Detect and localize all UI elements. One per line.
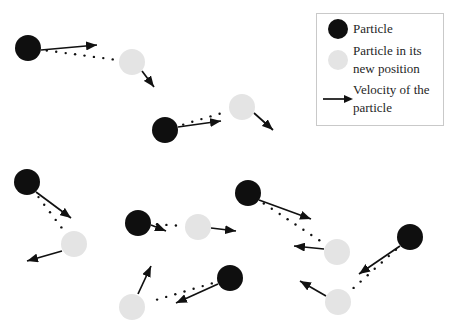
trail-dot — [310, 234, 312, 236]
particle — [397, 224, 423, 250]
trail-dot — [49, 211, 51, 213]
trail-dot — [43, 204, 45, 206]
trail-dot — [271, 208, 273, 210]
particle-new-position — [119, 49, 145, 75]
trail-dot — [102, 57, 104, 59]
trail-dot — [381, 261, 383, 263]
black-particle-swatch — [328, 19, 348, 39]
trail-dot — [367, 274, 369, 276]
velocity-arrow — [178, 121, 221, 127]
trail-dot — [55, 219, 57, 221]
velocity-arrow — [41, 45, 97, 50]
new-velocity-arrow — [254, 113, 273, 130]
particle — [235, 180, 261, 206]
velocity-arrow — [176, 284, 218, 303]
legend-box: Particle Particle in its new position Ve… — [316, 13, 444, 126]
legend-text-line: Velocity of the — [353, 81, 430, 99]
trail-dot — [60, 226, 62, 228]
legend-item-velocity: Velocity of the particle — [323, 81, 439, 117]
new-velocity-arrow — [138, 266, 151, 294]
trail-dot — [218, 113, 220, 115]
new-velocity-arrow — [300, 281, 326, 296]
legend-label-particle: Particle — [353, 20, 393, 38]
new-velocity-arrow — [27, 251, 62, 261]
trail-dot — [174, 293, 176, 295]
trail-dot — [352, 287, 354, 289]
trail-dot — [65, 52, 67, 54]
legend-label-new-position: Particle in its new position — [353, 42, 422, 78]
trail-dot — [112, 58, 114, 60]
velocity-arrow-icon — [323, 94, 353, 104]
trail-dot — [211, 282, 213, 284]
particle — [14, 169, 40, 195]
trail-dot — [286, 218, 288, 220]
new-velocity-arrow — [294, 246, 324, 249]
trail-dot — [192, 288, 194, 290]
trail-dot — [183, 290, 185, 292]
velocity-arrow-glyph — [323, 94, 353, 104]
particle-new-position — [325, 289, 351, 315]
trail-dot — [294, 223, 296, 225]
velocity-arrow — [151, 225, 166, 231]
trail-dot — [202, 285, 204, 287]
particle-icon — [323, 19, 353, 39]
trail-dot — [279, 213, 281, 215]
particle — [217, 265, 243, 291]
trail-dot — [74, 53, 76, 55]
trail-dot — [165, 224, 167, 226]
new-velocity-arrow — [142, 71, 154, 87]
new-velocity-arrow — [211, 228, 236, 231]
particle-simulation-figure: Particle Particle in its new position Ve… — [0, 0, 456, 328]
trail-dot — [175, 224, 177, 226]
legend-text-line: new position — [353, 60, 422, 78]
trail-dot — [37, 196, 39, 198]
trail-dot — [302, 229, 304, 231]
gray-particle-swatch — [328, 50, 348, 70]
trail-dot — [156, 223, 158, 225]
particle-new-position — [61, 231, 87, 257]
trail-dot — [388, 255, 390, 257]
legend-item-particle: Particle — [323, 19, 439, 39]
legend-label-velocity: Velocity of the particle — [353, 81, 430, 117]
legend-text-line: particle — [353, 99, 430, 117]
particle-new-position — [119, 294, 145, 320]
trail-dot — [200, 118, 202, 120]
trail-dot — [209, 115, 211, 117]
legend-text-line: Particle in its — [353, 42, 422, 60]
particle-new-position — [324, 239, 350, 265]
trail-dot — [359, 280, 361, 282]
trail-dot — [156, 298, 158, 300]
particle — [15, 35, 41, 61]
particle — [152, 117, 178, 143]
legend-item-new-position: Particle in its new position — [323, 42, 439, 78]
velocity-arrow — [36, 192, 71, 218]
velocity-arrow — [359, 246, 400, 274]
velocity-arrow — [259, 200, 311, 219]
trail-dot — [93, 56, 95, 58]
particle-new-position — [229, 94, 255, 120]
trail-dot — [374, 268, 376, 270]
legend-text-line: Particle — [353, 20, 393, 38]
trail-dot — [83, 54, 85, 56]
trail-dot — [55, 51, 57, 53]
particle-new-position-icon — [323, 50, 353, 70]
particle — [125, 210, 151, 236]
trail-dot — [191, 121, 193, 123]
particle-new-position — [185, 214, 211, 240]
trail-dot — [165, 296, 167, 298]
trail-dot — [318, 239, 320, 241]
